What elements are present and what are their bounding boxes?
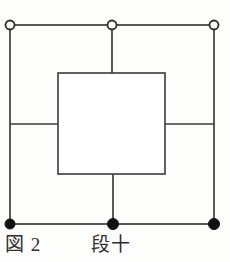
bottom-right-node-icon xyxy=(209,219,220,230)
figure-caption: 図 2 段十 xyxy=(0,234,230,262)
top-middle-node-icon xyxy=(108,21,117,30)
bottom-left-node-icon xyxy=(5,219,15,229)
caption-label: 段十 xyxy=(91,235,131,254)
top-right-node-icon xyxy=(210,21,219,30)
inner-square xyxy=(58,73,165,174)
line-diagram xyxy=(0,0,230,262)
top-left-node-icon xyxy=(6,21,15,30)
figure-container: 図 2 段十 xyxy=(0,0,230,262)
bottom-middle-node-icon xyxy=(108,219,119,230)
caption-figure-number: 図 2 xyxy=(5,235,41,254)
